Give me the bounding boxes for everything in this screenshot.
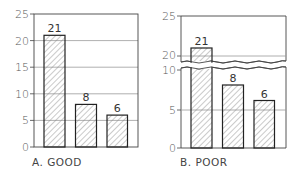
chart-b-bar-2 xyxy=(223,85,244,148)
chart-b-label-3: 6 xyxy=(261,88,268,101)
chart-b-bar-3 xyxy=(254,101,275,149)
chart-a-bar-1 xyxy=(44,35,65,147)
chart-a-tick-5: 5 xyxy=(22,114,29,127)
chart-b-poor: 0 5 10 20 25 21 8 6 B. POOR xyxy=(162,10,286,168)
chart-b-tick-0: 0 xyxy=(169,142,176,155)
chart-a-label-2: 8 xyxy=(83,91,90,104)
chart-a-label-3: 6 xyxy=(114,102,121,115)
chart-b-caption: B. POOR xyxy=(180,156,228,168)
chart-a-bar-2 xyxy=(76,104,97,147)
chart-b-y-axis-labels: 0 5 10 20 25 xyxy=(162,10,176,155)
chart-b-tick-25: 25 xyxy=(162,10,176,23)
chart-a-label-1: 21 xyxy=(48,22,62,35)
chart-a-caption: A. GOOD xyxy=(32,156,82,168)
chart-a-tick-20: 20 xyxy=(15,35,29,48)
chart-b-bar-1-upper xyxy=(191,48,212,62)
figure: 0 5 10 15 20 25 21 8 6 A. GOOD xyxy=(0,0,301,179)
chart-b-bar-1-lower xyxy=(191,68,212,148)
chart-a-tick-25: 25 xyxy=(15,8,29,21)
chart-a-tick-0: 0 xyxy=(22,141,29,154)
chart-b-tick-20: 20 xyxy=(162,49,176,62)
chart-b-tick-5: 5 xyxy=(169,104,176,117)
chart-b-tick-10: 10 xyxy=(162,64,176,77)
chart-a-tick-marks xyxy=(30,14,34,147)
chart-a-y-axis-labels: 0 5 10 15 20 25 xyxy=(15,8,29,154)
chart-a-tick-10: 10 xyxy=(15,88,29,101)
chart-a-good: 0 5 10 15 20 25 21 8 6 A. GOOD xyxy=(15,8,138,168)
chart-b-label-2: 8 xyxy=(230,72,237,85)
chart-b-tick-marks xyxy=(177,16,181,148)
chart-b-label-1: 21 xyxy=(195,35,209,48)
chart-a-tick-15: 15 xyxy=(15,61,29,74)
chart-a-bar-3 xyxy=(107,115,128,147)
